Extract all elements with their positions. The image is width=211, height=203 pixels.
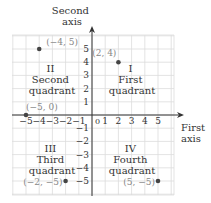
- point: (5, −5): [123, 177, 160, 187]
- x-tick-label: 3: [129, 116, 135, 126]
- x-tick-label: −5: [19, 116, 33, 126]
- y-tick-label: 5: [83, 44, 89, 54]
- point: (−2, −5): [23, 177, 68, 187]
- y-tick-label: −5: [76, 176, 90, 186]
- x-tick-label: −3: [46, 116, 60, 126]
- point-label: (−2, −5): [23, 177, 62, 187]
- point-marker-icon: [156, 179, 161, 184]
- y-tick-label: 2: [83, 84, 89, 94]
- point-label: (5, −5): [123, 177, 155, 187]
- coordinate-plane: Second axis First axis −5−4−3−2−112345 5…: [0, 0, 211, 203]
- point-marker-icon: [63, 179, 68, 184]
- y-tick-label: −4: [76, 163, 90, 173]
- y-axis-label: Second axis: [52, 5, 92, 27]
- x-tick-labels: −5−4−3−2−112345: [19, 116, 161, 126]
- quadrant-label-first: I First quadrant: [109, 63, 155, 96]
- x-tick-label: −4: [33, 116, 47, 126]
- quadrant-label-third: III Third quadrant: [29, 143, 75, 176]
- x-tick-label: −2: [59, 116, 72, 126]
- origin-label: 0: [95, 117, 100, 126]
- point-label: (2, 4): [92, 48, 116, 58]
- quadrant-label-second: II Second quadrant: [29, 63, 75, 96]
- y-tick-label: 3: [83, 70, 89, 80]
- y-tick-label: −1: [76, 123, 89, 133]
- y-tick-label: 4: [83, 57, 89, 67]
- x-tick-label: 5: [155, 116, 161, 126]
- point-marker-icon: [24, 113, 29, 118]
- x-tick-label: 4: [142, 116, 148, 126]
- y-tick-label: 1: [83, 97, 89, 107]
- y-tick-label: −2: [76, 136, 89, 146]
- quadrant-label-fourth: IV Fourth quadrant: [109, 143, 155, 176]
- point-marker-icon: [37, 47, 42, 52]
- x-axis-label: First axis: [181, 122, 208, 144]
- point-label: (−5, 0): [26, 102, 58, 112]
- point-marker-icon: [116, 60, 121, 65]
- x-tick-label: 1: [102, 116, 108, 126]
- point-label: (−4, 5): [46, 37, 78, 47]
- y-tick-label: −3: [76, 150, 90, 160]
- x-tick-label: 2: [116, 116, 122, 126]
